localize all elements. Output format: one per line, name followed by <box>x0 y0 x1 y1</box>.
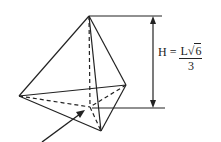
median-left-dashed <box>19 96 90 107</box>
arrowhead-up-icon <box>150 16 156 24</box>
formula-numerator: L√6 <box>179 45 202 59</box>
radicand: 6 <box>194 43 201 58</box>
formula-denominator: 3 <box>179 59 202 73</box>
height-formula: H = L√63 <box>158 45 202 73</box>
centroid-pointer-arrow <box>42 114 80 142</box>
edge-apex-left <box>19 16 89 96</box>
numerator-L: L <box>180 44 187 58</box>
formula-lhs: H = <box>158 45 176 60</box>
formula-fraction: L√63 <box>179 45 202 73</box>
edge-apex-bottom <box>89 16 101 131</box>
arrowhead-down-icon <box>150 100 156 108</box>
edge-left-right <box>19 85 126 96</box>
edge-left-bottom <box>19 96 101 131</box>
